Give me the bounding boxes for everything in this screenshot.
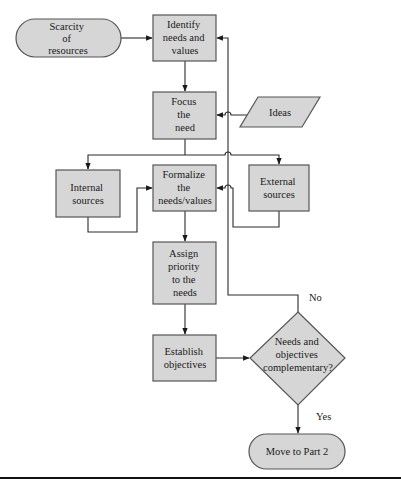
- node-establish-objectives: Establish objectives: [153, 335, 216, 381]
- process-shape: [56, 170, 120, 217]
- node-external-sources: External sources: [249, 165, 309, 211]
- node-scarcity-of-resources: Scarcity of resources: [16, 19, 121, 57]
- node-label: Ideas: [269, 107, 291, 118]
- node-assign-priority: Assign priority to the needs: [153, 242, 216, 304]
- edge-label-yes: Yes: [316, 411, 331, 422]
- node-focus-the-need: Focus the need: [153, 92, 216, 139]
- node-formalize-needs-values: Formalize the needs/values: [153, 165, 216, 211]
- node-move-to-part-2: Move to Part 2: [249, 434, 345, 469]
- edge-ideas-focus: [217, 112, 248, 115]
- flowchart: Scarcity of resources Identify needs and…: [0, 0, 401, 486]
- process-shape: [249, 165, 309, 211]
- edge-branch-external: [185, 152, 279, 164]
- process-shape: [153, 335, 216, 381]
- node-decision-complementary: Needs and objectives complementary?: [250, 312, 345, 405]
- node-identify-needs-and-values: Identify needs and values: [153, 15, 216, 61]
- node-internal-sources: Internal sources: [56, 170, 120, 217]
- edge-label-no: No: [309, 292, 322, 303]
- node-ideas: Ideas: [240, 97, 320, 127]
- node-label: Move to Part 2: [266, 446, 329, 457]
